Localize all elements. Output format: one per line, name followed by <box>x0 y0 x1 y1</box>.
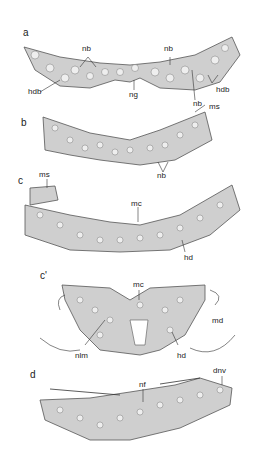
label-dnv: dnv <box>213 367 226 375</box>
section-c-tissue <box>25 185 240 252</box>
label-md: md <box>212 317 223 325</box>
label-nb: nb <box>157 172 166 180</box>
label-nb: nb <box>164 45 173 53</box>
label-ng: ng <box>129 91 138 99</box>
illustration-canvas <box>0 0 259 470</box>
panel-label-b: b <box>21 118 27 128</box>
panel-label-c: c <box>18 176 23 186</box>
section-c-prime-tissue <box>40 285 235 355</box>
section-b-tissue <box>43 112 212 165</box>
label-nlm: nlm <box>75 352 88 360</box>
panel-label-d: d <box>30 370 36 380</box>
panel-label-c-prime: c' <box>40 271 47 281</box>
label-hdb: hdb <box>28 88 41 96</box>
label-ms: ms <box>209 103 220 111</box>
label-nb: nb <box>82 45 91 53</box>
label-mc: mc <box>131 200 142 208</box>
label-hdb: hdb <box>216 86 229 94</box>
label-hd: hd <box>184 254 193 262</box>
label-ms: ms <box>39 171 50 179</box>
label-nb: nb <box>193 100 202 108</box>
label-nf: nf <box>139 381 146 389</box>
label-hd: hd <box>177 352 186 360</box>
panel-label-a: a <box>23 28 29 38</box>
section-d-tissue <box>40 378 232 440</box>
label-mc: mc <box>133 281 144 289</box>
